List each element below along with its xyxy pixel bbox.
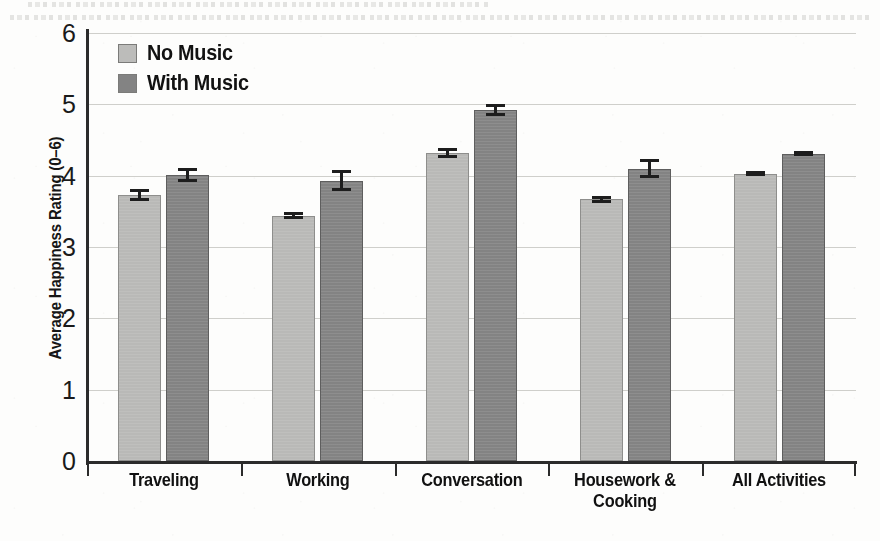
bar-working-with-music bbox=[320, 181, 363, 461]
bar-traveling-with-music bbox=[166, 175, 209, 461]
y-tick-label-4: 4 bbox=[62, 163, 76, 188]
bar-texture bbox=[783, 155, 824, 460]
bar-housework-cooking-no-music bbox=[580, 199, 623, 461]
bar-texture bbox=[167, 176, 208, 460]
y-tick-label-1: 1 bbox=[62, 377, 76, 402]
gridline-5 bbox=[87, 104, 856, 105]
y-tick-label-2: 2 bbox=[62, 306, 76, 331]
bar-chart-figure: Average Happiness Rating (0–6) 0123456 T… bbox=[0, 0, 880, 541]
bar-texture bbox=[427, 154, 468, 460]
bar-working-no-music bbox=[272, 216, 315, 461]
bar-all-activities-with-music bbox=[782, 154, 825, 461]
x-axis-category-labels: TravelingWorkingConversationHousework &C… bbox=[87, 470, 856, 540]
bar-texture bbox=[119, 196, 160, 460]
y-tick-label-6: 6 bbox=[62, 21, 76, 46]
legend-item-no-music: No Music bbox=[118, 40, 260, 66]
x-axis-label-traveling: Traveling bbox=[98, 470, 230, 491]
gridline-6 bbox=[87, 33, 856, 34]
chart-legend: No MusicWith Music bbox=[118, 40, 260, 96]
bar-texture bbox=[475, 111, 516, 460]
bar-texture bbox=[321, 182, 362, 460]
y-tick-label-5: 5 bbox=[62, 92, 76, 117]
y-tick-label-0: 0 bbox=[62, 449, 76, 474]
plot-area: 0123456 bbox=[87, 33, 856, 461]
bar-all-activities-no-music bbox=[734, 174, 777, 461]
bar-texture bbox=[581, 200, 622, 460]
legend-label: With Music bbox=[147, 70, 249, 96]
bar-texture bbox=[629, 170, 670, 460]
bar-conversation-no-music bbox=[426, 153, 469, 461]
y-axis-line bbox=[86, 29, 89, 465]
x-axis-label-working: Working bbox=[252, 470, 384, 491]
x-axis-label-conversation: Conversation bbox=[405, 470, 537, 491]
bar-housework-cooking-with-music bbox=[628, 169, 671, 461]
bar-conversation-with-music bbox=[474, 110, 517, 461]
legend-swatch-light bbox=[118, 44, 137, 63]
bar-texture bbox=[273, 217, 314, 460]
legend-swatch-dark bbox=[118, 74, 137, 93]
x-axis-label-all-activities: All Activities bbox=[713, 470, 845, 491]
bar-traveling-no-music bbox=[118, 195, 161, 461]
x-axis-label-housework-cooking: Housework &Cooking bbox=[559, 470, 691, 511]
bar-texture bbox=[735, 175, 776, 460]
legend-item-with-music: With Music bbox=[118, 70, 260, 96]
x-axis-line bbox=[86, 461, 857, 464]
legend-label: No Music bbox=[147, 40, 233, 66]
y-tick-label-3: 3 bbox=[62, 235, 76, 260]
